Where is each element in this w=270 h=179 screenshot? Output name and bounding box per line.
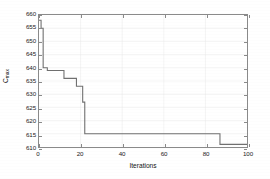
chart-figure: 610615620625630635640645650655660 020406… [0,0,270,179]
y-tick-label: 615 [2,132,36,138]
y-tick-mark [244,69,247,70]
x-tick-label: 40 [119,151,126,157]
x-tick-mark [39,15,40,18]
y-tick-mark [39,122,42,123]
y-tick-mark [39,69,42,70]
x-tick-label: 60 [161,151,168,157]
x-tick-label: 20 [77,151,84,157]
x-tick-mark [165,15,166,18]
x-tick-label: 0 [36,151,39,157]
x-tick-mark [123,15,124,18]
y-tick-label: 625 [2,105,36,111]
x-tick-mark [81,15,82,18]
y-tick-mark [244,15,247,16]
y-axis-title-subscript: max [5,69,10,78]
y-tick-label: 620 [2,118,36,124]
x-tick-mark [123,144,124,147]
y-tick-mark [39,28,42,29]
y-tick-mark [39,42,42,43]
x-tick-mark [81,144,82,147]
y-tick-mark [39,82,42,83]
y-tick-mark [244,55,247,56]
y-tick-label: 660 [2,11,36,17]
y-tick-mark [39,55,42,56]
x-tick-mark [249,144,250,147]
data-series-line [39,15,247,147]
x-tick-mark [39,144,40,147]
x-tick-label: 100 [243,151,253,157]
y-axis-title-main: C [2,78,9,83]
y-tick-mark [244,136,247,137]
y-axis-title: Cmax [3,52,11,100]
y-tick-mark [244,122,247,123]
x-axis-title: Iterations [38,163,248,170]
y-tick-mark [39,149,42,150]
y-tick-label: 655 [2,24,36,30]
y-tick-mark [39,109,42,110]
x-tick-mark [207,15,208,18]
y-tick-label: 610 [2,145,36,151]
y-tick-label: 650 [2,38,36,44]
y-tick-mark [244,28,247,29]
x-tick-mark [165,144,166,147]
x-tick-mark [249,15,250,18]
y-tick-mark [244,95,247,96]
plot-area [38,14,248,148]
x-axis-tick-labels: 020406080100 [38,151,248,161]
x-tick-mark [207,144,208,147]
y-tick-mark [39,95,42,96]
y-tick-mark [244,109,247,110]
y-tick-mark [39,136,42,137]
y-tick-mark [244,82,247,83]
x-tick-label: 80 [203,151,210,157]
y-tick-mark [244,42,247,43]
